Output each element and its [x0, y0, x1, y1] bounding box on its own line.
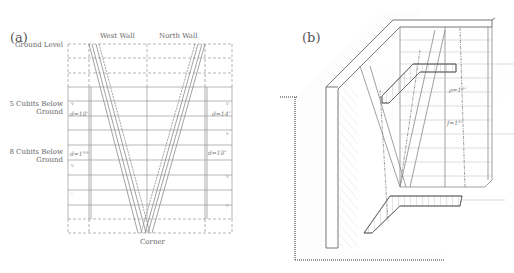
five-cubits-label-line1: 5 Cubits Below: [9, 100, 63, 108]
annotation-b-upper: ρ=1°″: [449, 86, 467, 94]
svg-text:v: v: [225, 173, 229, 179]
corner-label: Corner: [140, 238, 165, 246]
west-wall-label: West Wall: [100, 32, 135, 40]
panel-b-label: (b): [302, 30, 320, 45]
perspective-excavation-drawing: [260, 0, 514, 273]
svg-text:v: v: [225, 100, 229, 106]
svg-text:v: v: [70, 100, 74, 106]
svg-text:v: v: [225, 202, 229, 208]
five-cubits-label-line2: Ground: [36, 108, 63, 116]
svg-text:v: v: [70, 162, 74, 168]
ground-level-label: Ground Level: [15, 41, 63, 49]
panel-b-perspective: (b) ρ=1°″ f=1°″: [260, 0, 514, 273]
annotation-left-lower: d=1°°′: [70, 150, 90, 158]
annotation-left-upper: d=18″: [70, 110, 89, 118]
annotation-right-upper: d=14″: [212, 110, 231, 118]
svg-text:v: v: [225, 130, 229, 136]
eight-cubits-label-line1: 8 Cubits Below: [9, 148, 63, 156]
annotation-b-lower: f=1°″: [447, 119, 463, 127]
eight-cubits-label-line2: Ground: [36, 156, 63, 164]
annotation-right-lower: d=18″: [208, 149, 227, 157]
svg-text:-: -: [71, 190, 73, 196]
panel-a-elevation: v v - v v v v (a) West Wall North Wall G…: [0, 0, 260, 273]
north-wall-label: North Wall: [159, 32, 197, 40]
